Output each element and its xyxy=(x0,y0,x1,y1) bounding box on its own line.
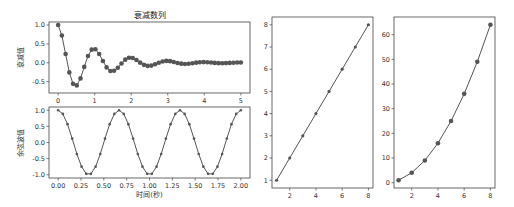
x-tick-label: 6 xyxy=(340,192,344,200)
chart-square: 24680102030405060 xyxy=(382,17,495,200)
data-point xyxy=(202,165,205,168)
data-point xyxy=(301,134,304,137)
y-tick-label: 10 xyxy=(382,154,390,162)
y-tick-label: 0.0 xyxy=(35,59,45,67)
data-point xyxy=(122,113,125,116)
data-point xyxy=(314,112,317,115)
series-line xyxy=(58,110,241,174)
data-point xyxy=(127,123,130,126)
data-point xyxy=(94,165,97,168)
data-point xyxy=(354,45,357,48)
data-point xyxy=(101,59,106,64)
data-point xyxy=(183,113,186,116)
y-tick-label: 0.0 xyxy=(35,139,45,147)
data-point xyxy=(136,153,139,156)
data-point xyxy=(193,137,196,140)
y-tick-label: 50 xyxy=(382,56,390,64)
data-point xyxy=(146,173,149,176)
y-tick-label: 0.5 xyxy=(35,123,45,131)
x-tick-label: 4 xyxy=(314,192,318,200)
data-point xyxy=(118,109,121,112)
chart-linear: 246812345678 xyxy=(264,17,373,200)
data-point xyxy=(76,153,79,156)
data-point xyxy=(221,153,224,156)
y-tick-label: 2 xyxy=(264,154,268,162)
data-point xyxy=(119,61,124,66)
series-line xyxy=(58,25,241,85)
x-tick-label: 8 xyxy=(488,192,492,200)
data-point xyxy=(85,173,88,176)
y-tick-label: -1.0 xyxy=(32,171,45,179)
chart-cosine: 0.000.250.500.751.001.251.501.752.00-1.0… xyxy=(16,107,250,199)
y-tick-label: 0.5 xyxy=(35,40,45,48)
x-tick-label: 0 xyxy=(56,97,60,105)
data-point xyxy=(132,137,135,140)
data-point xyxy=(449,119,454,124)
y-tick-label: -0.5 xyxy=(32,78,45,86)
x-tick-label: 0.00 xyxy=(51,182,65,190)
data-point xyxy=(90,173,93,176)
data-point xyxy=(80,165,83,168)
y-tick-label: 20 xyxy=(382,130,390,138)
data-point xyxy=(60,33,65,38)
data-point xyxy=(104,137,107,140)
data-point xyxy=(99,153,102,156)
y-tick-label: 40 xyxy=(382,80,390,88)
data-point xyxy=(197,153,200,156)
data-point xyxy=(82,65,87,70)
x-tick-label: 8 xyxy=(366,192,370,200)
x-tick-label: 5 xyxy=(239,97,243,105)
x-tick-label: 1.75 xyxy=(211,182,225,190)
x-tick-label: 1 xyxy=(93,97,97,105)
figure: 012345-0.50.00.51.0衰减数列衰减值0.000.250.500.… xyxy=(0,0,514,207)
x-tick-label: 2.00 xyxy=(234,182,248,190)
data-point xyxy=(108,123,111,126)
chart-damped: 012345-0.50.00.51.0衰减数列衰减值 xyxy=(16,10,250,105)
data-point xyxy=(134,58,139,63)
data-point xyxy=(240,109,243,112)
y-tick-label: 1.0 xyxy=(35,21,45,29)
x-tick-label: 1.25 xyxy=(165,182,179,190)
y-tick-label: 1 xyxy=(264,177,268,185)
y-tick-label: 5 xyxy=(264,88,268,96)
data-point xyxy=(235,113,238,116)
data-point xyxy=(423,158,428,163)
data-point xyxy=(188,123,191,126)
data-point xyxy=(367,23,370,26)
x-tick-label: 3 xyxy=(166,97,170,105)
y-axis-label: 余弦波值 xyxy=(16,129,25,157)
data-point xyxy=(151,173,154,176)
x-tick-label: 6 xyxy=(462,192,466,200)
y-tick-label: 1.0 xyxy=(35,107,45,115)
data-point xyxy=(66,123,69,126)
chart-title: 衰减数列 xyxy=(134,10,166,20)
data-point xyxy=(475,59,480,64)
axes-frame xyxy=(49,107,250,178)
data-point xyxy=(113,113,116,116)
data-point xyxy=(179,109,182,112)
data-point xyxy=(211,173,214,176)
data-point xyxy=(169,123,172,126)
y-tick-label: -0.5 xyxy=(32,155,45,163)
x-tick-label: 1.00 xyxy=(142,182,156,190)
y-axis-label: 衰减值 xyxy=(16,47,25,68)
data-point xyxy=(155,165,158,168)
data-point xyxy=(63,52,68,57)
data-point xyxy=(165,137,168,140)
data-point xyxy=(78,76,83,81)
y-tick-label: 4 xyxy=(264,110,268,118)
data-point xyxy=(239,60,244,65)
data-point xyxy=(67,70,72,75)
data-point xyxy=(488,22,493,27)
data-point xyxy=(62,113,65,116)
data-point xyxy=(104,65,109,70)
data-point xyxy=(396,178,401,183)
data-point xyxy=(288,156,291,159)
data-point xyxy=(327,90,330,93)
data-point xyxy=(116,65,121,70)
data-point xyxy=(230,123,233,126)
axes-frame xyxy=(394,17,495,188)
x-axis-label: 时间(秒) xyxy=(136,190,163,199)
data-point xyxy=(71,137,74,140)
y-tick-label: 0 xyxy=(386,179,390,187)
